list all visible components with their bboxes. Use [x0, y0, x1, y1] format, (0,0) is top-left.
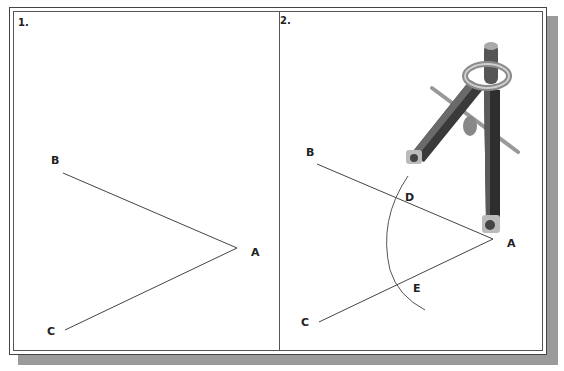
panel-1-angle [63, 173, 237, 330]
panel-2-label-d: D [405, 191, 414, 204]
panel-2-angle [317, 164, 493, 322]
panel-2-label-e: E [413, 282, 421, 295]
panel-2-label-c: C [301, 316, 309, 329]
panel-2-label-b: B [306, 146, 314, 159]
panel-1-label-c: C [47, 325, 55, 338]
panel-2-label-a: A [507, 237, 516, 250]
panel-1-label-b: B [51, 154, 59, 167]
panel-1-label-a: A [251, 246, 260, 259]
compass-icon [406, 42, 518, 233]
diagram-canvas: B A C B D A E C [0, 0, 564, 371]
